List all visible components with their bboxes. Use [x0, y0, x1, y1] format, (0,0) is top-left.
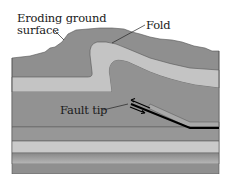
eroding-surface-label-line2: surface — [17, 24, 59, 36]
geologic-cross-section: Eroding ground surface Fold Fault tip — [0, 0, 228, 174]
fault-tip-label: Fault tip — [60, 104, 107, 116]
lower-light-layer — [12, 141, 219, 153]
bottom-layer — [12, 153, 219, 163]
fold-label: Fold — [146, 19, 171, 31]
lower-mid-layer — [12, 127, 219, 141]
